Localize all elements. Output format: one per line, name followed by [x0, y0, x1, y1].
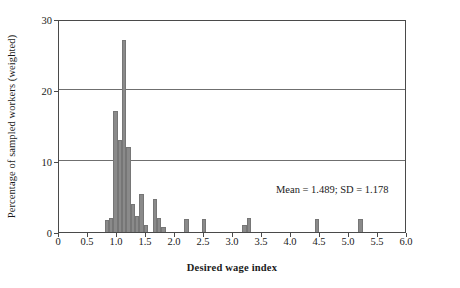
x-tick-label-5.0: 5.0 — [333, 236, 363, 247]
x-tick-label-3.0: 3.0 — [217, 236, 247, 247]
stats-annotation: Mean = 1.489; SD = 1.178 — [276, 184, 388, 195]
x-tick-mark-3.0 — [232, 233, 233, 237]
y-tick-label-30: 30 — [26, 15, 52, 26]
x-tick-mark-5.0 — [348, 233, 349, 237]
y-axis-title-text: Percentage of sampled workers (weighted) — [7, 35, 18, 219]
x-tick-mark-0 — [58, 233, 59, 237]
histogram-chart: Percentage of sampled workers (weighted)… — [0, 0, 460, 288]
x-tick-mark-3.5 — [261, 233, 262, 237]
y-tick-label-20: 20 — [26, 86, 52, 97]
x-tick-label-0.5: 0.5 — [72, 236, 102, 247]
x-tick-label-0: 0 — [43, 236, 73, 247]
x-tick-label-2.5: 2.5 — [188, 236, 218, 247]
x-tick-label-5.5: 5.5 — [362, 236, 392, 247]
y-tick-label-10: 10 — [26, 157, 52, 168]
bars-layer — [59, 21, 405, 232]
plot-area — [58, 20, 406, 233]
x-axis-title: Desired wage index — [58, 262, 406, 273]
x-tick-label-4.5: 4.5 — [304, 236, 334, 247]
x-tick-mark-0.5 — [87, 233, 88, 237]
x-tick-label-3.5: 3.5 — [246, 236, 276, 247]
histogram-bar — [161, 227, 165, 232]
x-tick-mark-4.0 — [290, 233, 291, 237]
histogram-bar — [202, 219, 206, 232]
histogram-bar — [247, 218, 251, 232]
x-tick-mark-5.5 — [377, 233, 378, 237]
x-tick-mark-2.5 — [203, 233, 204, 237]
x-tick-label-1.0: 1.0 — [101, 236, 131, 247]
x-tick-label-4.0: 4.0 — [275, 236, 305, 247]
gridline-y-30 — [59, 18, 405, 19]
x-tick-mark-6.0 — [406, 233, 407, 237]
x-tick-mark-1.5 — [145, 233, 146, 237]
histogram-bar — [184, 219, 188, 232]
x-tick-label-6.0: 6.0 — [391, 236, 421, 247]
y-axis-title: Percentage of sampled workers (weighted) — [4, 20, 20, 233]
x-tick-label-1.5: 1.5 — [130, 236, 160, 247]
x-tick-mark-4.5 — [319, 233, 320, 237]
histogram-bar — [315, 219, 319, 232]
x-tick-mark-1.0 — [116, 233, 117, 237]
x-tick-label-2.0: 2.0 — [159, 236, 189, 247]
x-tick-mark-2.0 — [174, 233, 175, 237]
histogram-bar — [358, 219, 362, 232]
histogram-bar — [144, 225, 148, 232]
